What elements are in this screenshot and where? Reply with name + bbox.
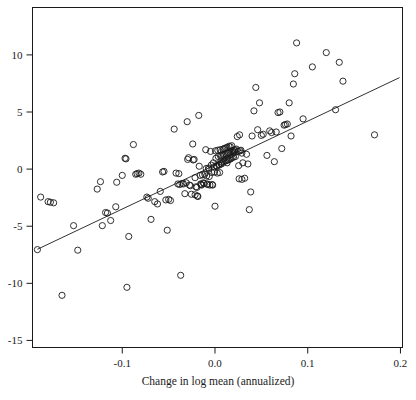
y-tick-label: -15 <box>8 334 23 346</box>
x-tick-label: 0.1 <box>301 357 315 369</box>
y-tick-label: 5 <box>17 106 23 118</box>
x-axis-title: Change in log mean (annualized) <box>142 375 295 388</box>
figure-background <box>0 0 416 400</box>
scatter-plot-figure: -15-10-50510 -0.10.00.10.2 Change in log… <box>0 0 416 400</box>
x-tick-label: 0.2 <box>394 357 408 369</box>
y-tick-label: -10 <box>8 277 23 289</box>
y-tick-label: 10 <box>12 49 24 61</box>
x-tick-label: -0.1 <box>114 357 131 369</box>
y-tick-label: -5 <box>13 220 23 232</box>
x-tick-label: 0.0 <box>208 357 222 369</box>
y-tick-label: 0 <box>17 163 23 175</box>
chart-canvas: -15-10-50510 -0.10.00.10.2 Change in log… <box>0 0 416 400</box>
